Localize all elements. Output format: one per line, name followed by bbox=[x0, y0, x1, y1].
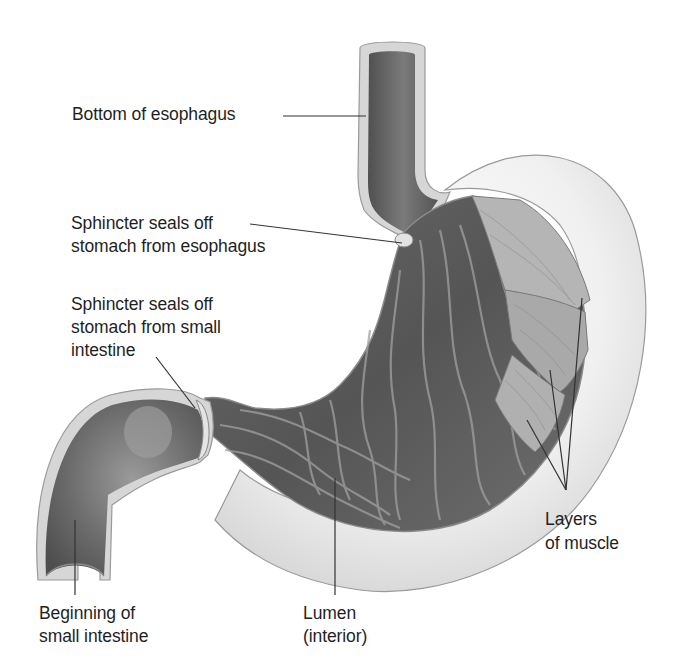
stomach-diagram: Bottom of esophagus Sphincter seals off … bbox=[0, 0, 674, 670]
label-lumen-line2: (interior) bbox=[303, 625, 367, 647]
leader-upper-sphincter bbox=[250, 224, 402, 243]
label-lumen-line1: Lumen bbox=[303, 602, 356, 624]
label-small-intestine-line1: Beginning of bbox=[39, 602, 135, 624]
label-upper-sphincter-line2: stomach from esophagus bbox=[71, 235, 265, 257]
label-lower-sphincter-line1: Sphincter seals off bbox=[71, 293, 213, 315]
small-intestine bbox=[37, 389, 213, 580]
label-lower-sphincter-line2: stomach from small bbox=[71, 316, 221, 338]
label-lower-sphincter-line3: intestine bbox=[71, 339, 135, 361]
label-small-intestine-line2: small intestine bbox=[39, 625, 148, 647]
upper-sphincter bbox=[395, 233, 413, 247]
label-bottom-of-esophagus: Bottom of esophagus bbox=[72, 103, 236, 125]
label-muscle-line1: Layers bbox=[545, 508, 597, 530]
label-upper-sphincter-line1: Sphincter seals off bbox=[71, 212, 213, 234]
label-muscle-line2: of muscle bbox=[545, 532, 619, 554]
